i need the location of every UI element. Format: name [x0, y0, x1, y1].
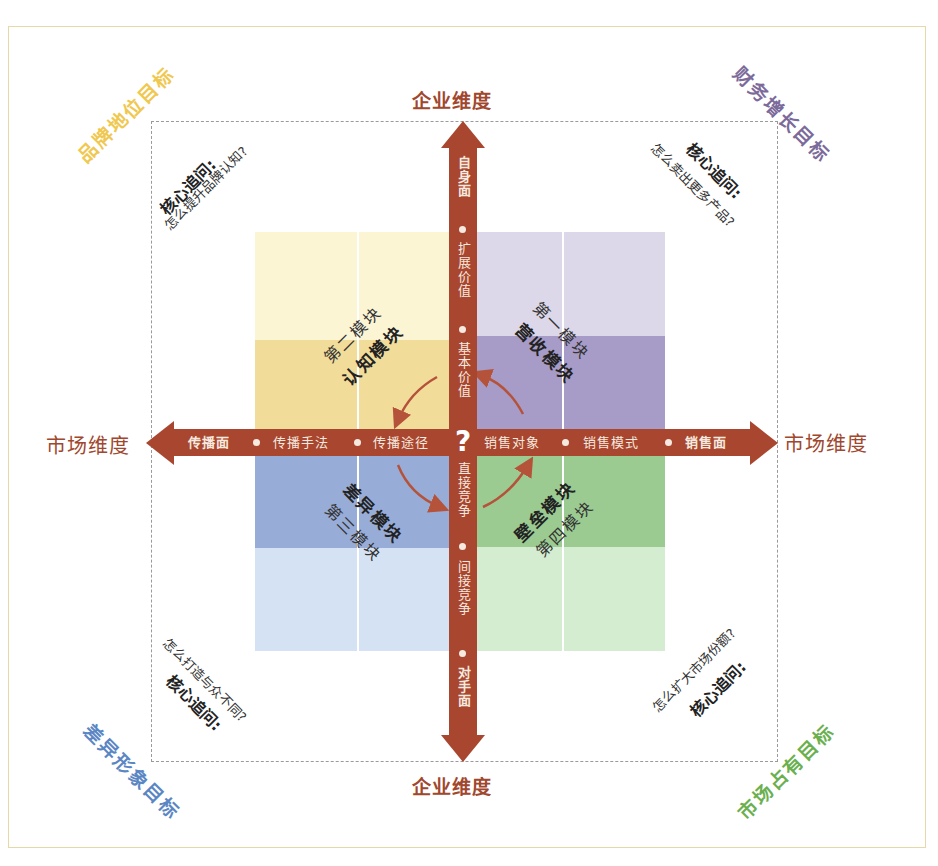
dot-separator [253, 439, 260, 446]
arrow-left-icon [146, 421, 174, 465]
top-dimension-label: 企业维度 [412, 86, 492, 113]
axis-label-extended-value: 扩展价值 [449, 242, 477, 298]
arrow-right-icon [750, 421, 778, 465]
axis-label-indirect-competition: 间接竞争 [449, 560, 477, 616]
q3-cell-outer [255, 548, 449, 651]
axis-label-communication-channel: 传播途径 [373, 429, 429, 456]
center-question-mark: ? [449, 423, 477, 461]
axis-label-sales-target: 销售对象 [484, 429, 540, 456]
dot-separator [665, 439, 672, 446]
dot-separator [354, 439, 361, 446]
dot-separator [459, 650, 466, 657]
arrow-down-icon [441, 735, 485, 762]
axis-label-competitor: 对手面 [449, 666, 477, 708]
left-dimension-label: 市场维度 [46, 430, 130, 459]
dot-separator [562, 439, 569, 446]
dot-separator [459, 226, 466, 233]
dot-separator [459, 326, 466, 333]
axis-label-self: 自身面 [449, 156, 477, 198]
axis-label-communication-surface: 传播面 [188, 429, 230, 456]
dot-separator [459, 543, 466, 550]
axis-label-sales-surface: 销售面 [685, 429, 727, 456]
axis-label-direct-competition: 直接竞争 [449, 462, 477, 518]
axis-label-communication-method: 传播手法 [273, 429, 329, 456]
arrow-up-icon [441, 121, 485, 148]
q4-cell-outer [477, 547, 665, 651]
bottom-dimension-label: 企业维度 [412, 772, 492, 799]
right-dimension-label: 市场维度 [784, 428, 868, 457]
q1-cell-outer [477, 232, 665, 336]
axis-label-sales-model: 销售模式 [583, 429, 639, 456]
axis-label-basic-value: 基本价值 [449, 342, 477, 398]
